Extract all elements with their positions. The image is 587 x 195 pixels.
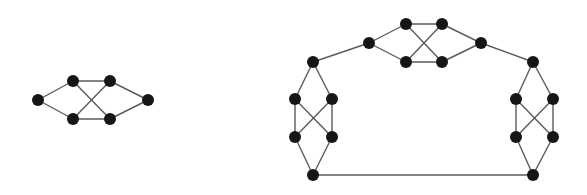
graph-edge xyxy=(295,137,313,175)
graph-edge xyxy=(481,43,533,62)
graph-edge xyxy=(313,137,332,175)
graph-node xyxy=(547,93,559,105)
graph-node xyxy=(400,18,412,30)
small-graph-nodes xyxy=(32,75,154,125)
graph-edge xyxy=(110,81,148,100)
graph-edge xyxy=(295,62,313,99)
graph-edge xyxy=(533,137,553,175)
small-graph-edges xyxy=(38,81,148,119)
graph-node xyxy=(475,37,487,49)
graph-node xyxy=(289,131,301,143)
graph-node xyxy=(289,93,301,105)
graph-node xyxy=(67,113,79,125)
graph-edge xyxy=(369,43,406,62)
graph-node xyxy=(510,131,522,143)
graph-node xyxy=(527,56,539,68)
graph-node xyxy=(547,131,559,143)
graph-node xyxy=(400,56,412,68)
graph-node xyxy=(436,56,448,68)
graph-node xyxy=(142,94,154,106)
nodes-layer xyxy=(32,18,559,181)
graph-node xyxy=(104,75,116,87)
graph-node xyxy=(307,56,319,68)
graph-edge xyxy=(313,43,369,62)
graph-edge xyxy=(313,62,332,99)
graph-edge xyxy=(533,62,553,99)
graph-edge xyxy=(369,24,406,43)
graph-node xyxy=(307,169,319,181)
graph-node xyxy=(326,93,338,105)
graph-node xyxy=(363,37,375,49)
graph-edge xyxy=(516,137,533,175)
graph-node xyxy=(436,18,448,30)
graph-node xyxy=(527,169,539,181)
graph-edge xyxy=(516,62,533,99)
graph-node xyxy=(104,113,116,125)
graph-edge xyxy=(442,43,481,62)
graph-edge xyxy=(110,100,148,119)
graph-node xyxy=(510,93,522,105)
graph-node xyxy=(67,75,79,87)
graph-node xyxy=(32,94,44,106)
graph-node xyxy=(326,131,338,143)
graph-edge xyxy=(442,24,481,43)
graph-diagram-canvas xyxy=(0,0,587,195)
